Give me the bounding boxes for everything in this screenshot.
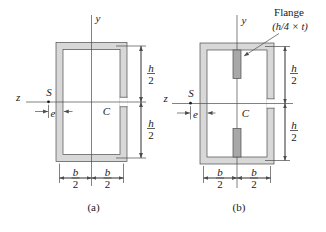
h-numerator: h: [291, 119, 297, 131]
half-width-label-left: b 2: [216, 166, 224, 190]
centroid-label: C: [242, 107, 250, 119]
figure-canvas: y z C S e h 2 h: [0, 0, 326, 232]
shear-center-point: [189, 102, 192, 105]
centroid-label: C: [103, 105, 111, 117]
h-denominator: 2: [291, 74, 297, 86]
b-denominator: 2: [217, 178, 223, 190]
h-numerator: h: [291, 62, 297, 74]
top-flange: [233, 50, 241, 79]
half-width-label-right: b 2: [250, 166, 258, 190]
figure-a: y z C S e h 2 h: [15, 12, 155, 214]
b-numerator: b: [217, 166, 223, 178]
shear-center-point: [47, 100, 50, 103]
b-denominator: 2: [73, 178, 79, 190]
b-denominator: 2: [105, 178, 111, 190]
z-axis-label: z: [15, 91, 21, 103]
h-denominator: 2: [148, 129, 154, 141]
flange-callout-size: (h/4 × t): [272, 21, 308, 33]
cross-section-diagram: y z C S e h 2 h: [0, 0, 326, 232]
half-width-label-right: b 2: [104, 166, 112, 190]
flange-callout-title: Flange: [274, 6, 304, 18]
half-height-label-bottom: h 2: [147, 117, 155, 141]
b-denominator: 2: [251, 178, 257, 190]
y-axis-label: y: [95, 12, 101, 24]
b-numerator: b: [105, 166, 111, 178]
half-height-label-top: h 2: [290, 62, 298, 86]
h-denominator: 2: [148, 74, 154, 86]
caption-a: (a): [87, 201, 100, 214]
h-denominator: 2: [291, 131, 297, 143]
bottom-flange: [233, 129, 241, 158]
figure-b: y z C Flange (h/4 × t) S e: [163, 6, 309, 214]
eccentricity-label: e: [51, 107, 56, 119]
eccentricity-label: e: [193, 108, 198, 120]
half-height-label-bottom: h 2: [290, 119, 298, 143]
b-numerator: b: [251, 166, 257, 178]
b-numerator: b: [73, 166, 79, 178]
h-numerator: h: [148, 62, 154, 74]
z-axis-label: z: [163, 92, 169, 104]
caption-b: (b): [233, 201, 246, 214]
shear-center-label: S: [188, 87, 194, 99]
half-height-label-top: h 2: [147, 62, 155, 86]
shear-center-label: S: [46, 86, 52, 98]
half-width-label-left: b 2: [72, 166, 80, 190]
y-axis-label: y: [241, 14, 247, 26]
h-numerator: h: [148, 117, 154, 129]
